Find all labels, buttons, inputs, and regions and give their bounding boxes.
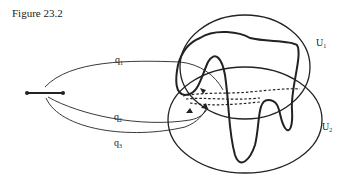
dotted-path-2: [186, 98, 260, 99]
label-q2: q2: [114, 111, 122, 123]
dotted-path-3: [190, 102, 260, 105]
label-u1: U1: [316, 37, 326, 49]
path-q2: [48, 97, 208, 122]
interval-segment: [25, 91, 65, 95]
diagram-canvas: q1 q2 q3 U1 U2: [0, 0, 341, 178]
label-q1: q1: [115, 54, 123, 66]
arrowhead-q2: [186, 108, 193, 113]
label-q3: q3: [114, 137, 122, 149]
dotted-path-1: [183, 89, 300, 96]
closed-curve: [176, 32, 298, 163]
path-q3: [46, 98, 207, 133]
label-u2: U2: [322, 121, 332, 133]
path-q1: [45, 61, 223, 90]
